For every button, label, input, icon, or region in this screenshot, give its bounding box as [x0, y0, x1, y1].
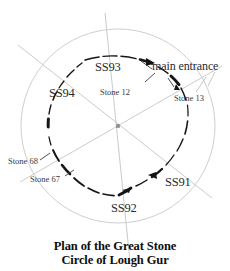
sightline-main-entrance — [20, 66, 222, 182]
stone-mark — [67, 70, 74, 77]
short-guide-stone13 — [196, 77, 206, 92]
label-stone-12: Stone 12 — [100, 88, 130, 97]
leader-stone-12 — [145, 73, 155, 82]
stone-mark — [53, 150, 59, 161]
leader-stone-68 — [40, 153, 50, 160]
figure-title: Plan of the Great Stone Circle of Lough … — [0, 239, 230, 267]
stone-mark — [121, 56, 136, 58]
stone-circle-plan-figure: SS93 SS94 SS91 SS92 main entrance Stone … — [0, 0, 230, 271]
figure-title-line-1: Plan of the Great Stone — [0, 239, 230, 253]
label-stone-68: Stone 68 — [8, 157, 38, 166]
label-ss94: SS94 — [49, 87, 75, 100]
label-ss93: SS93 — [95, 61, 121, 74]
stone-mark — [74, 178, 84, 186]
label-stone-13: Stone 13 — [174, 94, 204, 103]
stone-mark — [188, 105, 189, 116]
short-guide-entrance — [208, 72, 215, 86]
label-stone-67: Stone 67 — [30, 175, 60, 184]
stone-mark — [185, 121, 188, 134]
stone-mark — [49, 105, 51, 114]
stone-mark — [136, 180, 147, 186]
stone-mark — [103, 194, 114, 196]
label-ss92: SS92 — [111, 202, 137, 215]
figure-title-line-2: Circle of Lough Gur — [0, 253, 230, 267]
stone-mark — [177, 139, 183, 151]
stone-mark — [103, 56, 117, 57]
stone-mark — [77, 63, 82, 67]
stone-mark — [49, 137, 51, 145]
circle-centre-marker — [116, 124, 120, 128]
stone-mark — [171, 76, 179, 85]
stone-mark — [88, 188, 99, 193]
sightline-ss93-ss92 — [105, 13, 130, 262]
plan-diagram-svg — [0, 0, 230, 271]
stone-mark — [166, 155, 174, 165]
stone-mark — [62, 165, 70, 174]
label-main-entrance: main entrance — [152, 60, 218, 72]
label-ss91: SS91 — [165, 176, 191, 189]
